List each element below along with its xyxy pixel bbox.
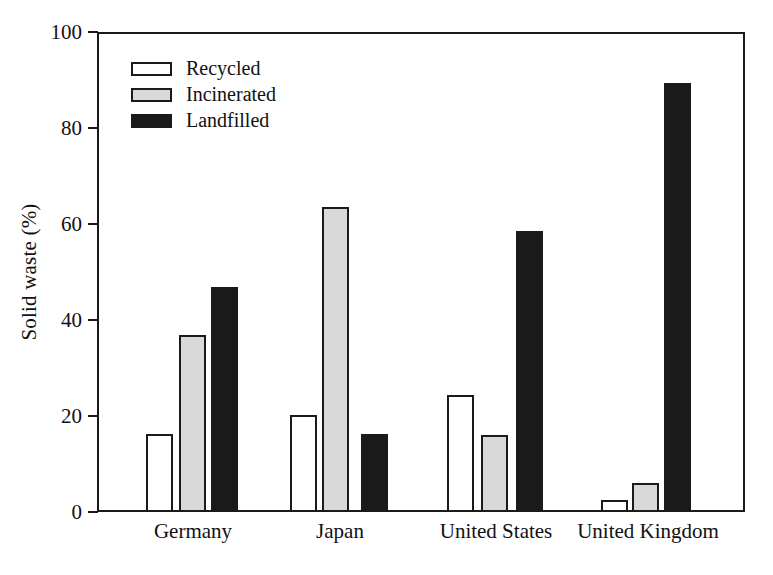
legend-swatch-incinerated bbox=[131, 88, 172, 102]
legend-item-landfilled[interactable]: Landfilled bbox=[131, 109, 276, 132]
bar-incinerated[interactable] bbox=[322, 207, 349, 512]
legend-swatch-recycled bbox=[131, 62, 172, 76]
bar-landfilled[interactable] bbox=[664, 83, 691, 512]
bar-landfilled[interactable] bbox=[211, 287, 238, 512]
chart-legend: RecycledIncineratedLandfilled bbox=[131, 57, 276, 135]
bar-recycled[interactable] bbox=[447, 395, 474, 512]
x-tick-label-united-states: United States bbox=[440, 519, 553, 544]
y-tick-label: 80 bbox=[20, 116, 82, 141]
bar-recycled[interactable] bbox=[290, 415, 317, 512]
legend-label: Recycled bbox=[186, 57, 260, 80]
x-tick-label-japan: Japan bbox=[316, 519, 364, 544]
legend-item-incinerated[interactable]: Incinerated bbox=[131, 83, 276, 106]
y-tick-label: 100 bbox=[20, 20, 82, 45]
bar-landfilled[interactable] bbox=[361, 434, 388, 512]
bar-recycled[interactable] bbox=[146, 434, 173, 512]
bar-incinerated[interactable] bbox=[481, 435, 508, 512]
legend-item-recycled[interactable]: Recycled bbox=[131, 57, 276, 80]
y-axis-title: Solid waste (%) bbox=[12, 32, 46, 512]
x-tick-label-germany: Germany bbox=[154, 519, 232, 544]
legend-swatch-landfilled bbox=[131, 114, 172, 128]
bar-chart-figure: Solid waste (%) 020406080100 GermanyJapa… bbox=[0, 0, 773, 575]
legend-label: Landfilled bbox=[186, 109, 269, 132]
bar-landfilled[interactable] bbox=[516, 231, 543, 512]
y-tick-label: 60 bbox=[20, 212, 82, 237]
x-tick-label-united-kingdom: United Kingdom bbox=[577, 519, 719, 544]
y-tick-label: 40 bbox=[20, 308, 82, 333]
legend-label: Incinerated bbox=[186, 83, 276, 106]
bar-incinerated[interactable] bbox=[179, 335, 206, 512]
bar-incinerated[interactable] bbox=[632, 483, 659, 512]
bar-recycled[interactable] bbox=[601, 500, 628, 512]
y-tick-label: 20 bbox=[20, 404, 82, 429]
y-tick-label: 0 bbox=[20, 500, 82, 525]
